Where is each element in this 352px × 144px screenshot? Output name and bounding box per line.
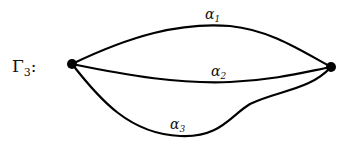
edge-alpha1 bbox=[72, 25, 331, 67]
label-alpha1: α1 bbox=[205, 6, 220, 24]
node-right bbox=[326, 62, 336, 72]
label-alpha3: α3 bbox=[170, 116, 185, 134]
edge-alpha2 bbox=[72, 64, 331, 82]
node-left bbox=[67, 59, 77, 69]
graph-name: Γ3: bbox=[12, 56, 37, 79]
graph-diagram: Γ3: α1 α2 α3 bbox=[0, 0, 352, 144]
label-alpha2: α2 bbox=[211, 63, 226, 81]
